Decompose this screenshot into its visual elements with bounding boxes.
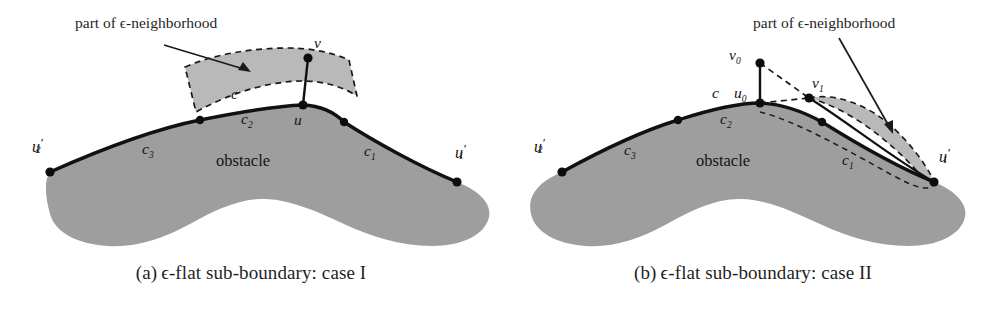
vertex-u1-prime-b	[929, 177, 938, 186]
obstacle-label-b: obstacle	[696, 151, 750, 170]
vertex-v1	[804, 93, 813, 102]
label-u1-prime-a: u′1	[455, 141, 466, 161]
label-c-b: c	[712, 84, 719, 101]
label-v1-b: v1	[812, 74, 824, 94]
annotation-label-b: part of ϵ-neighborhood	[753, 14, 896, 31]
vertex-mid-right-b	[818, 118, 826, 126]
caption-a-text: ϵ-flat sub-boundary: case I	[161, 262, 366, 283]
obstacle-shape-a	[46, 105, 490, 246]
caption-a: (a)ϵ-flat sub-boundary: case I	[0, 262, 502, 284]
vertex-v	[303, 53, 312, 62]
vertex-mid-right	[340, 118, 348, 126]
caption-b: (b)ϵ-flat sub-boundary: case II	[502, 262, 1004, 284]
vertex-mid-left	[196, 116, 204, 124]
caption-a-index: (a)	[136, 262, 157, 283]
obstacle-shape-b	[530, 103, 965, 246]
figure-panel-b: part of ϵ-neighborhood obstacle u′2 u′1 …	[502, 0, 1004, 316]
figure-sheet: part of ϵ-neighborhood obstacle u′2 u′1 …	[0, 0, 1004, 316]
label-u-a: u	[294, 111, 302, 128]
label-v0-b: v0	[729, 46, 741, 66]
caption-b-text: ϵ-flat sub-boundary: case II	[660, 262, 872, 283]
label-u0-b: u0	[734, 84, 747, 104]
vertex-mid-left-b	[674, 116, 682, 124]
label-v-a: v	[314, 34, 321, 51]
segment-v0-v1	[760, 63, 809, 98]
caption-b-index: (b)	[634, 262, 656, 283]
vertex-u	[298, 100, 307, 109]
label-u2-prime-a: u′2	[32, 135, 43, 155]
obstacle-label-a: obstacle	[216, 151, 270, 170]
vertex-u1-prime	[452, 177, 461, 186]
epsilon-neighborhood-region-a	[185, 48, 357, 112]
label-u2-prime-b: u′2	[534, 135, 545, 155]
label-u1-prime-b: u′1	[939, 145, 950, 165]
vertex-v0	[755, 58, 764, 67]
vertex-u2-prime	[45, 167, 54, 176]
vertex-u0	[755, 98, 764, 107]
annotation-label-a: part of ϵ-neighborhood	[75, 14, 218, 31]
vertex-u2-prime-b	[557, 167, 566, 176]
label-c-a: c	[231, 85, 238, 102]
figure-panel-a: part of ϵ-neighborhood obstacle u′2 u′1 …	[0, 0, 502, 316]
